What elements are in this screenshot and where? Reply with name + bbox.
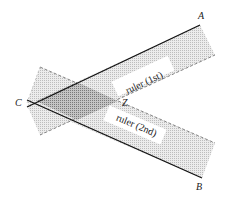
point-Z-label: Z — [122, 97, 128, 108]
point-B-label: B — [196, 181, 202, 192]
point-C-label: C — [15, 97, 22, 108]
point-A-label: A — [197, 10, 205, 21]
ruler-construction-diagram: A B C Z ruler (1st) ruler (2nd) — [0, 0, 230, 205]
